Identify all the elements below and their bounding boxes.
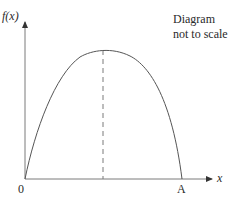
note-line-2: not to scale (173, 27, 228, 42)
origin-label: 0 (18, 183, 24, 196)
note-line-1: Diagram (173, 12, 228, 27)
not-to-scale-note: Diagram not to scale (173, 12, 228, 42)
y-axis-label: f(x) (2, 10, 19, 23)
x-axis-label: x (217, 172, 222, 185)
root-a-label: A (177, 183, 186, 196)
diagram-canvas: f(x) x 0 A Diagram not to scale (0, 0, 235, 198)
